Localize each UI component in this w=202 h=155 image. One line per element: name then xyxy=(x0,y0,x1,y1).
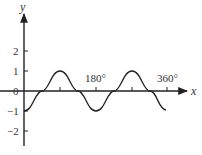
y-tick-label-minus-2: −2 xyxy=(7,125,19,137)
y-axis-label: y xyxy=(19,0,26,14)
y-tick-label-0: 0 xyxy=(13,85,19,97)
x-axis-label: x xyxy=(190,84,197,98)
y-tick-label-1: 1 xyxy=(13,65,19,77)
x-tick-label-180: 180° xyxy=(85,72,106,84)
y-tick-label-2: 2 xyxy=(13,45,19,57)
y-tick-label-minus-1: −1 xyxy=(7,105,19,117)
x-tick-label-360: 360° xyxy=(157,72,178,84)
chart-canvas: 2 1 0 −1 −2 180° 360° y x xyxy=(0,0,202,155)
